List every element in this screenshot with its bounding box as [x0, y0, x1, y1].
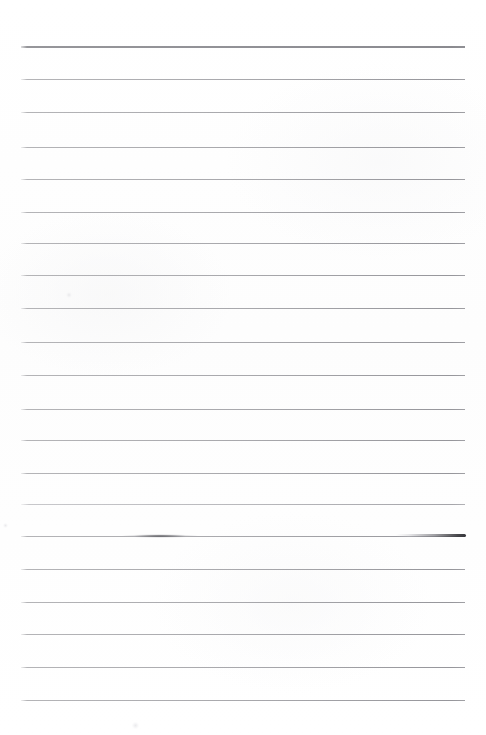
scan-speck [3, 523, 8, 528]
scanned-page [0, 0, 486, 735]
writing-area[interactable] [21, 46, 465, 702]
scan-speck [132, 722, 139, 729]
